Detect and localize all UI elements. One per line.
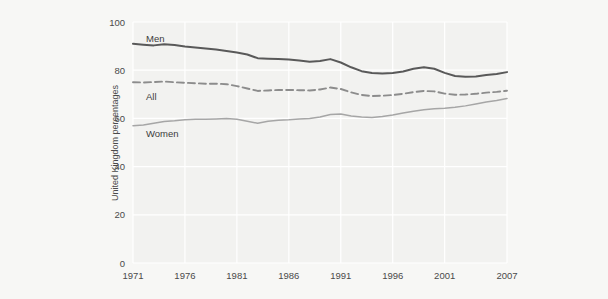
chart-figure: 020406080100 197119761981198619911996200… (0, 0, 608, 299)
series-label-men: Men (146, 33, 164, 44)
x-tick-label: 1996 (382, 270, 403, 281)
y-axis-title: United Kingdom percentages (110, 84, 120, 201)
line-chart: 020406080100 197119761981198619911996200… (0, 0, 608, 299)
y-tick-label: 80 (114, 65, 125, 76)
x-tick-label: 1991 (330, 270, 351, 281)
y-tick-label: 20 (114, 209, 125, 220)
x-tick-label: 2001 (434, 270, 455, 281)
x-tick-label: 1986 (278, 270, 299, 281)
plot-background (133, 22, 507, 263)
y-tick-label: 100 (109, 17, 125, 28)
x-tick-label: 1971 (122, 270, 143, 281)
x-tick-label: 1976 (174, 270, 195, 281)
series-label-women: Women (146, 128, 179, 139)
y-tick-label: 0 (120, 258, 125, 269)
x-tick-label: 1981 (226, 270, 247, 281)
series-label-all: All (146, 91, 157, 102)
x-tick-label: 2007 (496, 270, 517, 281)
